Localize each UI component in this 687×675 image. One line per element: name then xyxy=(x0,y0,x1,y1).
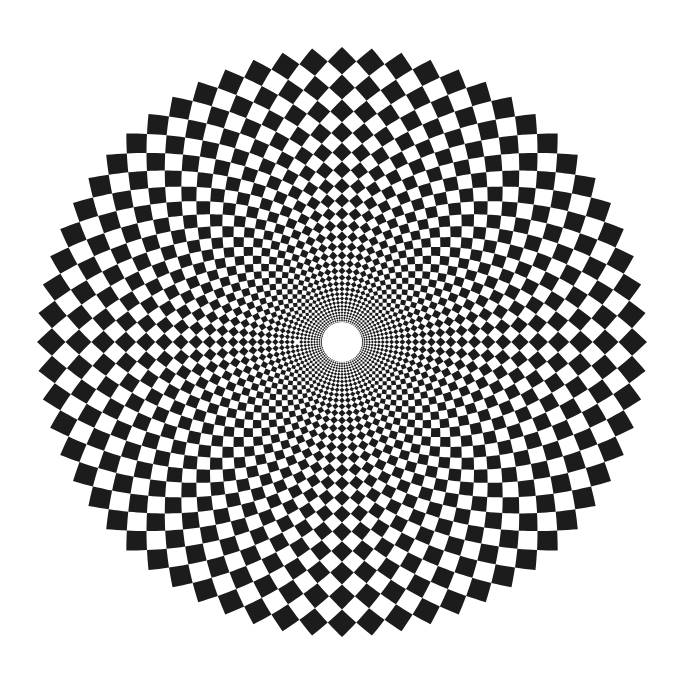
dark-tile xyxy=(210,457,223,469)
dark-tile xyxy=(317,318,319,320)
dark-tile xyxy=(369,313,372,316)
dark-tile xyxy=(375,306,379,309)
dark-tile xyxy=(415,278,422,285)
dark-tile xyxy=(360,318,362,320)
dark-tile xyxy=(297,299,301,303)
dark-tile xyxy=(126,133,147,153)
dark-tile xyxy=(379,310,383,314)
dark-tile xyxy=(357,360,359,362)
dark-tile xyxy=(282,395,288,401)
dark-tile xyxy=(395,272,402,279)
dark-tile xyxy=(378,385,383,389)
spiral-checkerboard xyxy=(0,0,687,675)
dark-tile xyxy=(317,359,319,361)
dark-tile xyxy=(408,406,415,413)
dark-tile xyxy=(223,247,234,258)
dark-tile xyxy=(234,457,246,469)
dark-tile xyxy=(312,313,315,316)
dark-tile xyxy=(288,400,294,406)
dark-tile xyxy=(148,479,166,497)
dark-tile xyxy=(254,405,262,413)
dark-tile xyxy=(537,133,558,153)
dark-tile xyxy=(282,294,288,299)
dark-tile xyxy=(320,324,322,326)
dark-tile xyxy=(367,315,370,318)
dark-tile xyxy=(315,315,318,318)
dark-tile xyxy=(359,358,361,360)
dark-tile xyxy=(244,247,253,256)
dark-tile xyxy=(197,172,213,188)
dark-tile xyxy=(422,271,430,279)
dark-tile xyxy=(487,187,502,202)
dark-tile xyxy=(459,188,474,202)
dark-tile xyxy=(499,135,519,154)
dark-tile xyxy=(148,187,166,205)
dark-tile xyxy=(502,497,519,513)
dark-tile xyxy=(364,318,366,320)
dark-tile xyxy=(448,202,461,215)
dark-tile xyxy=(222,447,233,458)
dark-tile xyxy=(244,446,255,457)
dark-tile xyxy=(183,215,198,229)
dark-tile xyxy=(293,294,298,299)
dark-tile xyxy=(196,469,210,482)
dark-tile xyxy=(182,155,200,173)
dark-tile xyxy=(282,284,288,290)
dark-tile xyxy=(147,549,169,570)
dark-tile xyxy=(269,271,276,278)
dark-tile xyxy=(439,256,449,266)
dark-tile xyxy=(147,114,169,135)
dark-tile xyxy=(474,201,488,214)
dark-tile xyxy=(362,362,364,364)
dark-tile xyxy=(421,238,431,248)
dark-tile xyxy=(407,257,415,265)
dark-tile xyxy=(502,171,519,187)
dark-tile xyxy=(360,322,362,324)
dark-tile xyxy=(487,483,502,498)
dark-tile xyxy=(297,389,302,394)
dark-tile xyxy=(305,381,309,385)
dark-tile xyxy=(450,447,461,458)
dark-tile xyxy=(301,385,306,389)
dark-tile xyxy=(320,366,323,368)
dark-tile xyxy=(402,278,408,284)
dark-tile xyxy=(262,399,269,406)
dark-tile xyxy=(448,469,461,482)
dark-tile xyxy=(402,400,408,406)
dark-tile xyxy=(317,313,320,316)
dark-tile xyxy=(383,381,387,385)
dark-tile xyxy=(367,320,370,322)
dark-tile xyxy=(375,368,378,371)
dark-tile xyxy=(315,366,318,369)
dark-tile xyxy=(315,310,318,313)
dark-tile xyxy=(312,307,315,310)
dark-tile xyxy=(126,531,147,551)
dark-tile xyxy=(375,374,379,377)
dark-tile xyxy=(244,428,253,437)
dark-tile xyxy=(461,237,473,249)
dark-tile xyxy=(366,371,369,374)
dark-tile xyxy=(358,362,360,364)
dark-tile xyxy=(324,327,326,329)
dark-tile xyxy=(325,326,327,328)
dark-tile xyxy=(387,385,392,390)
dark-tile xyxy=(484,512,502,530)
dark-tile xyxy=(319,362,321,364)
dark-tile xyxy=(382,306,386,310)
dark-tile xyxy=(276,400,282,406)
dark-tile xyxy=(181,187,196,202)
dark-tile xyxy=(515,114,537,135)
dark-tile xyxy=(317,368,320,371)
dark-tile xyxy=(440,237,450,247)
dark-tile xyxy=(165,497,182,513)
dark-tile xyxy=(473,227,486,240)
dark-tile xyxy=(269,406,276,413)
dark-tile xyxy=(484,155,502,173)
dark-tile xyxy=(309,377,313,381)
dark-tile xyxy=(372,371,375,374)
dark-tile xyxy=(223,426,234,437)
dark-tile xyxy=(196,201,210,214)
dark-tile xyxy=(253,238,263,248)
dark-tile xyxy=(210,214,223,226)
dark-tile xyxy=(375,299,379,303)
